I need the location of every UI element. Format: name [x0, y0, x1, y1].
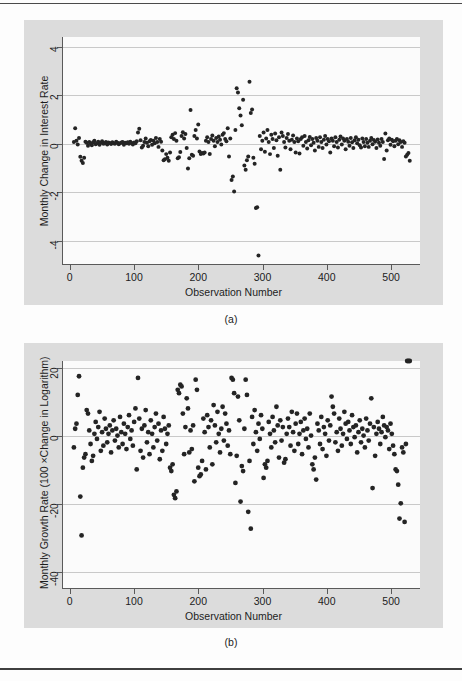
x-tick-mark	[327, 589, 328, 594]
data-point	[136, 130, 140, 134]
data-point	[388, 421, 393, 426]
data-point	[331, 139, 335, 143]
data-point	[88, 442, 93, 447]
data-point	[73, 426, 78, 431]
data-point	[237, 418, 242, 423]
data-point	[392, 144, 396, 148]
data-point	[93, 420, 98, 425]
data-point	[407, 359, 412, 364]
data-point	[406, 151, 410, 155]
data-point	[170, 462, 175, 467]
data-point	[182, 452, 187, 457]
data-point	[154, 136, 158, 140]
data-point	[220, 404, 225, 409]
data-point	[101, 443, 106, 448]
data-point	[195, 136, 199, 140]
x-axis-title-b: Observation Number	[24, 610, 443, 622]
data-point	[265, 459, 270, 464]
data-point	[125, 425, 130, 430]
data-point	[230, 377, 235, 382]
data-point	[195, 387, 200, 392]
data-point	[345, 437, 350, 442]
data-point	[137, 416, 142, 421]
data-point	[337, 416, 342, 421]
data-point	[168, 150, 172, 154]
data-point	[286, 416, 291, 421]
plot-area-a	[62, 37, 420, 265]
data-point	[324, 453, 329, 458]
data-point	[350, 413, 355, 418]
data-point	[347, 428, 352, 433]
data-point	[408, 159, 412, 163]
x-tick-label: 100	[114, 271, 154, 283]
data-point	[291, 430, 296, 435]
graph-region-b: Monthly Growth Rate (100 ×Change in Loga…	[24, 343, 443, 628]
data-point	[400, 145, 404, 149]
data-point	[270, 415, 275, 420]
data-point	[289, 147, 293, 151]
data-point	[74, 421, 79, 426]
data-point	[397, 516, 402, 521]
data-point	[265, 128, 269, 132]
data-point	[145, 440, 150, 445]
data-point	[259, 147, 263, 151]
data-point	[124, 447, 129, 452]
data-point	[260, 426, 265, 431]
data-point	[224, 421, 229, 426]
data-point	[282, 140, 286, 144]
data-point	[320, 447, 325, 452]
data-point	[207, 445, 212, 450]
data-point	[148, 418, 153, 423]
data-point	[219, 426, 224, 431]
data-point	[141, 144, 145, 148]
data-point	[314, 477, 319, 482]
data-point	[318, 442, 323, 447]
data-point	[269, 133, 273, 137]
data-point	[174, 139, 178, 143]
x-tick-mark	[70, 589, 71, 594]
data-point	[166, 423, 171, 428]
data-point	[278, 168, 282, 172]
x-tick-label: 500	[371, 595, 411, 607]
data-point	[179, 384, 184, 389]
y-tick-label: 2	[49, 95, 60, 125]
data-point	[96, 425, 101, 430]
data-point	[83, 452, 88, 457]
x-tick-label: 0	[50, 595, 90, 607]
data-point	[136, 376, 141, 381]
data-point	[218, 138, 222, 142]
data-point	[128, 437, 133, 442]
data-point	[106, 431, 111, 436]
data-point	[375, 420, 380, 425]
data-point	[268, 431, 273, 436]
data-point	[205, 135, 209, 139]
data-point	[75, 392, 80, 397]
x-tick-mark	[134, 265, 135, 270]
data-point	[273, 132, 277, 136]
data-point	[264, 136, 268, 140]
data-point	[281, 134, 285, 138]
x-tick-label: 400	[307, 271, 347, 283]
data-point	[243, 377, 248, 382]
data-point	[188, 428, 193, 433]
data-point	[340, 142, 344, 146]
data-point	[239, 464, 244, 469]
data-point	[76, 142, 80, 146]
data-point	[364, 416, 369, 421]
data-point	[373, 453, 378, 458]
data-point	[251, 442, 256, 447]
data-point	[167, 159, 171, 163]
data-point	[157, 145, 161, 149]
data-point	[362, 140, 366, 144]
data-point	[165, 431, 170, 436]
data-point	[385, 149, 389, 153]
data-point	[105, 440, 110, 445]
data-point	[139, 138, 143, 142]
data-point	[252, 408, 257, 413]
data-point	[286, 132, 290, 136]
data-point	[387, 447, 392, 452]
data-point	[177, 155, 181, 159]
data-point	[352, 435, 357, 440]
data-point	[369, 396, 374, 401]
data-point	[257, 437, 262, 442]
